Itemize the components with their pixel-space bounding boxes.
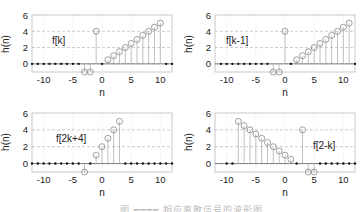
zero-dot-marker bbox=[231, 162, 233, 164]
y-axis-label: h(n) bbox=[0, 35, 11, 53]
y-tick-label: 6 bbox=[206, 108, 211, 119]
x-axis-label: n bbox=[99, 187, 105, 198]
y-tick-label: 0 bbox=[23, 158, 28, 169]
zero-dot-marker bbox=[77, 162, 79, 164]
x-axis-label: n bbox=[282, 87, 288, 98]
x-tick-label: 10 bbox=[155, 174, 166, 185]
x-tick-label: 5 bbox=[312, 74, 317, 85]
y-tick-label: 4 bbox=[23, 26, 28, 37]
zero-dot-marker bbox=[354, 162, 356, 164]
zero-dot-marker bbox=[54, 63, 56, 65]
stem-plot-figure: -10-505100246f[k]nh(n)-10-505100246f[k-1… bbox=[0, 0, 362, 212]
zero-dot-marker bbox=[48, 162, 50, 164]
zero-dot-marker bbox=[231, 63, 233, 65]
subplot-bottom-left: -10-505100246f[2k+4]nh(n) bbox=[0, 108, 173, 199]
y-tick-label: 2 bbox=[23, 141, 28, 152]
y-tick-label: 0 bbox=[206, 158, 211, 169]
signal-annotation: f[2k+4] bbox=[56, 133, 87, 144]
zero-dot-marker bbox=[220, 63, 222, 65]
zero-dot-marker bbox=[66, 162, 68, 164]
subplot-top-left: -10-505100246f[k]nh(n) bbox=[0, 10, 173, 99]
x-tick-label: -5 bbox=[252, 74, 260, 85]
zero-dot-marker bbox=[124, 162, 126, 164]
zero-dot-marker bbox=[31, 63, 33, 65]
x-tick-label: 5 bbox=[129, 174, 134, 185]
zero-dot-marker bbox=[171, 63, 173, 65]
zero-dot-marker bbox=[249, 63, 251, 65]
zero-dot-marker bbox=[290, 63, 292, 65]
x-tick-label: 10 bbox=[338, 74, 349, 85]
zero-dot-marker bbox=[243, 63, 245, 65]
zero-dot-marker bbox=[159, 162, 161, 164]
y-tick-label: 6 bbox=[23, 108, 28, 119]
signal-annotation: f[2-k] bbox=[313, 140, 335, 151]
zero-dot-marker bbox=[348, 162, 350, 164]
y-tick-label: 2 bbox=[206, 141, 211, 152]
figure-caption: 图 ━━━━ 相应离散信号的波形图 bbox=[120, 203, 263, 212]
zero-dot-marker bbox=[225, 162, 227, 164]
zero-dot-marker bbox=[130, 162, 132, 164]
x-tick-label: 0 bbox=[282, 74, 287, 85]
y-tick-label: 0 bbox=[206, 58, 211, 69]
zero-dot-marker bbox=[136, 162, 138, 164]
zero-dot-marker bbox=[42, 63, 44, 65]
zero-dot-marker bbox=[153, 162, 155, 164]
y-tick-label: 4 bbox=[206, 124, 211, 135]
zero-dot-marker bbox=[342, 162, 344, 164]
zero-dot-marker bbox=[255, 63, 257, 65]
x-tick-label: 10 bbox=[155, 74, 166, 85]
y-tick-label: 2 bbox=[23, 42, 28, 53]
x-tick-label: 0 bbox=[99, 74, 104, 85]
y-axis-label: h(n) bbox=[183, 35, 194, 53]
zero-dot-marker bbox=[142, 162, 144, 164]
zero-dot-marker bbox=[330, 162, 332, 164]
zero-dot-marker bbox=[325, 162, 327, 164]
zero-dot-marker bbox=[225, 63, 227, 65]
zero-dot-marker bbox=[171, 162, 173, 164]
zero-dot-marker bbox=[319, 162, 321, 164]
y-tick-label: 6 bbox=[206, 10, 211, 21]
y-axis-label: h(n) bbox=[183, 133, 194, 151]
zero-dot-marker bbox=[66, 63, 68, 65]
zero-dot-marker bbox=[295, 162, 297, 164]
x-tick-label: 10 bbox=[338, 174, 349, 185]
x-tick-label: -10 bbox=[37, 174, 51, 185]
zero-dot-marker bbox=[165, 63, 167, 65]
zero-dot-marker bbox=[147, 162, 149, 164]
zero-dot-marker bbox=[89, 162, 91, 164]
zero-dot-marker bbox=[72, 63, 74, 65]
y-axis-label: h(n) bbox=[0, 133, 11, 151]
zero-dot-marker bbox=[54, 162, 56, 164]
zero-dot-marker bbox=[31, 162, 33, 164]
zero-dot-marker bbox=[336, 162, 338, 164]
x-tick-label: -10 bbox=[220, 74, 234, 85]
zero-dot-marker bbox=[48, 63, 50, 65]
signal-annotation: f[k] bbox=[52, 35, 66, 46]
x-tick-label: 0 bbox=[99, 174, 104, 185]
x-tick-label: 5 bbox=[129, 74, 134, 85]
zero-dot-marker bbox=[72, 162, 74, 164]
y-tick-label: 4 bbox=[206, 26, 211, 37]
zero-dot-marker bbox=[237, 63, 239, 65]
zero-dot-marker bbox=[42, 162, 44, 164]
x-tick-label: -10 bbox=[37, 74, 51, 85]
x-tick-label: 0 bbox=[282, 174, 287, 185]
zero-dot-marker bbox=[266, 63, 268, 65]
x-tick-label: -10 bbox=[220, 174, 234, 185]
y-tick-label: 0 bbox=[23, 58, 28, 69]
zero-dot-marker bbox=[260, 63, 262, 65]
subplot-top-right: -10-505100246f[k-1]nh(n) bbox=[183, 10, 356, 99]
x-tick-label: -5 bbox=[69, 174, 77, 185]
x-tick-label: -5 bbox=[69, 74, 77, 85]
zero-dot-marker bbox=[165, 162, 167, 164]
x-axis-label: n bbox=[99, 87, 105, 98]
x-tick-label: -5 bbox=[252, 174, 260, 185]
y-tick-label: 2 bbox=[206, 42, 211, 53]
signal-annotation: f[k-1] bbox=[226, 35, 248, 46]
zero-dot-marker bbox=[101, 63, 103, 65]
x-axis-label: n bbox=[282, 187, 288, 198]
x-tick-label: 5 bbox=[312, 174, 317, 185]
y-tick-label: 6 bbox=[23, 10, 28, 21]
subplot-bottom-right: -10-505100246f[2-k]nh(n) bbox=[183, 108, 356, 199]
zero-dot-marker bbox=[37, 63, 39, 65]
